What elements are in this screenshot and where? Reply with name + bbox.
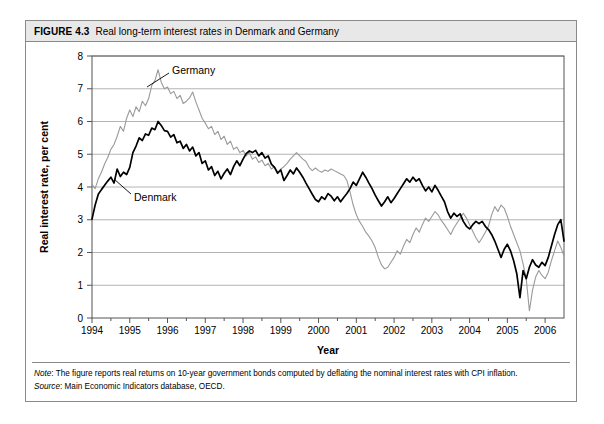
- figure-title-bar: FIGURE 4.3 Real long-term interest rates…: [26, 21, 576, 42]
- figure-notes: Note: The figure reports real returns on…: [26, 363, 576, 393]
- y-axis-tick-labels: 012345678: [77, 51, 83, 324]
- svg-text:2002: 2002: [383, 325, 406, 336]
- svg-text:2005: 2005: [496, 325, 519, 336]
- svg-text:1998: 1998: [232, 325, 255, 336]
- source-row: Source: Main Economic Indicators databas…: [34, 381, 568, 394]
- svg-text:6: 6: [77, 116, 83, 127]
- figure-number: FIGURE 4.3: [34, 26, 89, 37]
- svg-text:2001: 2001: [345, 325, 368, 336]
- svg-text:2: 2: [77, 247, 83, 258]
- svg-text:1997: 1997: [194, 325, 217, 336]
- svg-text:1994: 1994: [81, 325, 104, 336]
- note-label: Note: [34, 369, 51, 378]
- y-axis-title: Real interest rate, per cent: [38, 121, 50, 253]
- svg-text:2003: 2003: [421, 325, 444, 336]
- svg-text:4: 4: [77, 182, 83, 193]
- x-axis-title: Year: [317, 344, 339, 356]
- svg-text:1999: 1999: [270, 325, 293, 336]
- series-annotations: GermanyDenmark: [114, 64, 216, 203]
- x-axis-ticks: [92, 318, 545, 323]
- figure-title: Real long-term interest rates in Denmark…: [95, 26, 338, 37]
- svg-text:0: 0: [77, 313, 83, 324]
- svg-text:3: 3: [77, 214, 83, 225]
- svg-text:Germany: Germany: [172, 64, 216, 76]
- svg-text:1: 1: [77, 280, 83, 291]
- figure-container: FIGURE 4.3 Real long-term interest rates…: [25, 20, 577, 402]
- source-text: : Main Economic Indicators database, OEC…: [60, 382, 225, 391]
- source-label: Source: [34, 382, 60, 391]
- svg-text:2006: 2006: [534, 325, 557, 336]
- x-axis-tick-labels: 1994199519961997199819992000200120022003…: [81, 325, 557, 336]
- svg-text:1996: 1996: [156, 325, 179, 336]
- note-row: Note: The figure reports real returns on…: [34, 368, 568, 381]
- svg-text:5: 5: [77, 149, 83, 160]
- y-axis-ticks: [87, 56, 92, 318]
- svg-text:7: 7: [77, 83, 83, 94]
- svg-text:2004: 2004: [458, 325, 481, 336]
- interest-rate-line-chart: 012345678 199419951996199719981999200020…: [26, 42, 576, 362]
- svg-text:1995: 1995: [119, 325, 142, 336]
- note-text: : The figure reports real returns on 10-…: [51, 369, 517, 378]
- chart-plot-area: 012345678 199419951996199719981999200020…: [26, 42, 576, 362]
- svg-text:2000: 2000: [307, 325, 330, 336]
- svg-text:Denmark: Denmark: [134, 191, 177, 203]
- svg-text:8: 8: [77, 51, 83, 62]
